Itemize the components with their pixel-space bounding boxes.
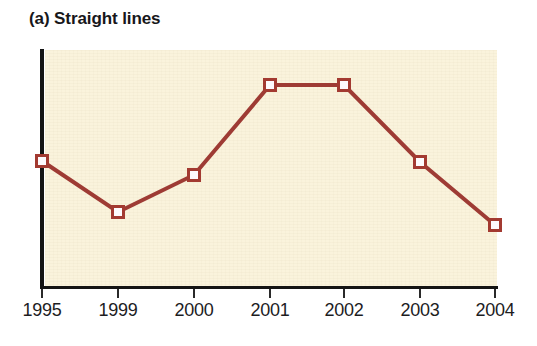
plot-area: [45, 50, 497, 288]
x-tick-label-2004: 2004: [476, 300, 515, 321]
plot-paper-texture: [45, 50, 497, 288]
x-tick-2001: [269, 289, 271, 298]
y-axis-line: [40, 49, 44, 289]
x-tick-2002: [343, 289, 345, 298]
x-tick-2000: [193, 289, 195, 298]
x-tick-2003: [419, 289, 421, 298]
chart-title: (a) Straight lines: [29, 9, 160, 29]
x-tick-label-2001: 2001: [251, 300, 290, 321]
x-tick-label-2003: 2003: [401, 300, 440, 321]
x-tick-label-1995: 1995: [23, 300, 62, 321]
x-tick-2004: [494, 289, 496, 298]
x-tick-label-2002: 2002: [325, 300, 364, 321]
chart-figure: (a) Straight lines 199519992000200120022…: [0, 0, 537, 346]
x-tick-label-2000: 2000: [175, 300, 214, 321]
x-tick-1999: [117, 289, 119, 298]
x-tick-label-1999: 1999: [99, 300, 138, 321]
x-tick-1995: [41, 289, 43, 298]
